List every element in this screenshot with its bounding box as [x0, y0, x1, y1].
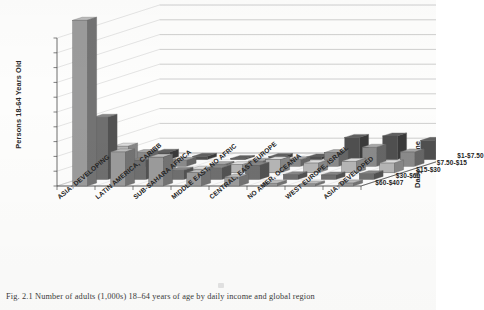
bar-chart-svg [0, 0, 436, 288]
bar [73, 17, 97, 186]
depth-axis-income-label: $60-$407 [375, 179, 403, 186]
figure-caption: Fig. 2.1 Number of adults (1,000s) 18–64… [6, 292, 430, 302]
depth-axis-income-label: $7.50-$15 [437, 159, 467, 166]
bar [380, 160, 404, 173]
scan-artifact [218, 283, 224, 288]
chart-plot-area: Persons 18-64 Years Old Daily Income 1,0… [0, 0, 436, 288]
bar [400, 149, 424, 166]
